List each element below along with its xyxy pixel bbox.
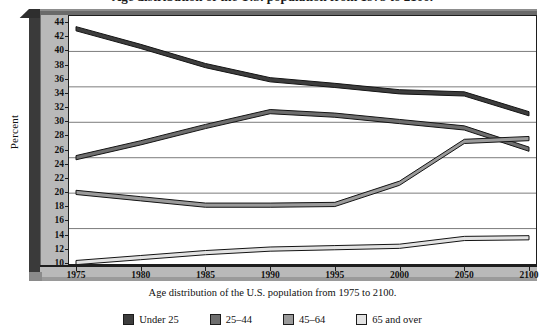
legend-item[interactable]: 45–64 (283, 314, 325, 325)
y-tick-label: 28 (55, 130, 65, 140)
y-tick-label: 32 (55, 102, 65, 112)
legend-label: 45–64 (299, 314, 325, 325)
y-tick-label: 14 (55, 230, 65, 240)
legend-item[interactable]: 65 and over (356, 314, 422, 325)
series-band (76, 136, 529, 207)
y-axis-title: Percent (8, 97, 20, 167)
y-tick-label: 16 (55, 215, 65, 225)
legend-label: 65 and over (372, 314, 422, 325)
chart-figure: Age distribution of the U.S. population … (0, 0, 545, 332)
x-tick-label: 2000 (390, 270, 409, 280)
y-tick-label: 20 (55, 187, 65, 197)
y-tick-label: 36 (55, 74, 65, 84)
y-tick-label: 12 (55, 244, 65, 254)
y-tick-label: 22 (55, 173, 65, 183)
series-canvas (69, 16, 536, 264)
x-tick-label: 2050 (455, 270, 474, 280)
series-band (76, 110, 529, 160)
series-band (76, 27, 529, 116)
x-tick-label: 2100 (520, 270, 539, 280)
legend-swatch-icon (123, 314, 134, 325)
chart-caption: Age distribution of the U.S. population … (0, 287, 545, 298)
y-tick-label: 38 (55, 60, 65, 70)
legend-item[interactable]: 25–44 (210, 314, 252, 325)
series-band (76, 236, 529, 264)
legend-swatch-icon (210, 314, 221, 325)
y-tick-label: 24 (55, 159, 65, 169)
chart-left-wall (29, 9, 40, 273)
chart-title: Age distribution of the U.S. population … (0, 0, 545, 5)
y-tick-label: 34 (55, 88, 65, 98)
chart-3d-body: 101214161820222426283032343638404244 (29, 9, 537, 281)
y-axis-panel: 101214161820222426283032343638404244 (40, 15, 69, 272)
y-tick-label: 40 (55, 45, 65, 55)
y-tick-label: 44 (55, 17, 65, 27)
y-tick-label: 18 (55, 201, 65, 211)
legend-item[interactable]: Under 25 (123, 314, 178, 325)
x-tick-label: 1975 (67, 270, 86, 280)
x-axis-labels: 19751980198519901995200020502100 (29, 270, 537, 284)
legend-swatch-icon (283, 314, 294, 325)
x-tick-label: 1990 (261, 270, 280, 280)
y-tick-label: 30 (55, 116, 65, 126)
legend-swatch-icon (356, 314, 367, 325)
y-tick-label: 42 (55, 31, 65, 41)
x-tick-label: 1980 (131, 270, 150, 280)
x-tick-label: 1985 (196, 270, 215, 280)
chart-legend: Under 2525–4445–6465 and over (0, 309, 545, 329)
chart-ceiling-highlight (40, 9, 537, 11)
legend-label: 25–44 (226, 314, 252, 325)
legend-label: Under 25 (139, 314, 178, 325)
plot-area (68, 15, 537, 265)
x-tick-label: 1995 (325, 270, 344, 280)
y-tick-label: 26 (55, 145, 65, 155)
